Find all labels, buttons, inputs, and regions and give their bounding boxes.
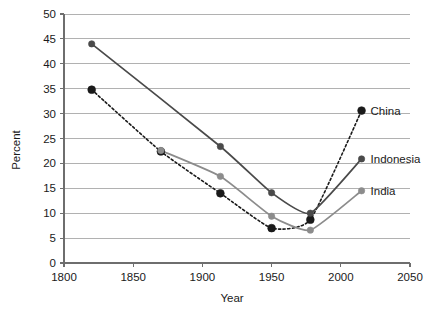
series-markers bbox=[88, 41, 366, 234]
series-label-india: India bbox=[371, 185, 397, 197]
data-point-india-1913 bbox=[217, 173, 223, 179]
data-point-china-1950 bbox=[268, 224, 276, 232]
y-tick-label-25: 25 bbox=[43, 133, 56, 145]
x-tick-label-1900: 1900 bbox=[190, 271, 216, 283]
data-point-indonesia-1913 bbox=[217, 143, 223, 149]
series-label-indonesia: Indonesia bbox=[371, 153, 421, 165]
series-label-china: China bbox=[371, 105, 402, 117]
y-tick-label-30: 30 bbox=[43, 108, 56, 120]
y-axis-tick-labels: 05101520253035404550 bbox=[43, 8, 56, 269]
x-tick-label-2050: 2050 bbox=[397, 271, 423, 283]
chart-canvas: 05101520253035404550 1800185019001950200… bbox=[0, 0, 441, 315]
data-point-china-1820 bbox=[88, 86, 96, 94]
y-tick-label-50: 50 bbox=[43, 8, 56, 20]
x-axis-tick-labels: 180018501900195020002050 bbox=[51, 271, 423, 283]
x-tick-label-1800: 1800 bbox=[51, 271, 77, 283]
data-point-indonesia-1950 bbox=[268, 190, 274, 196]
series-line-china bbox=[92, 90, 362, 229]
data-point-china-1978 bbox=[306, 216, 314, 224]
y-tick-label-10: 10 bbox=[43, 207, 56, 219]
line-chart: 05101520253035404550 1800185019001950200… bbox=[0, 0, 441, 315]
data-point-indonesia-1820 bbox=[88, 41, 94, 47]
x-tick-label-2000: 2000 bbox=[328, 271, 354, 283]
data-point-china-2015 bbox=[358, 107, 366, 115]
data-point-indonesia-1978 bbox=[307, 210, 313, 216]
y-tick-label-15: 15 bbox=[43, 182, 56, 194]
series-lines bbox=[92, 44, 362, 231]
y-tick-label-20: 20 bbox=[43, 157, 56, 169]
data-point-india-1870 bbox=[158, 147, 164, 153]
series-line-india bbox=[161, 150, 362, 230]
x-tick-label-1850: 1850 bbox=[120, 271, 146, 283]
y-axis-title: Percent bbox=[10, 129, 22, 169]
data-point-china-1913 bbox=[216, 189, 224, 197]
y-tick-label-0: 0 bbox=[50, 257, 56, 269]
y-tick-label-40: 40 bbox=[43, 58, 56, 70]
data-point-india-1950 bbox=[268, 213, 274, 219]
data-point-india-2015 bbox=[358, 188, 364, 194]
x-tick-label-1950: 1950 bbox=[259, 271, 285, 283]
y-tick-label-35: 35 bbox=[43, 83, 56, 95]
y-tick-label-45: 45 bbox=[43, 33, 56, 45]
tick-marks bbox=[60, 14, 410, 267]
x-axis-title: Year bbox=[220, 292, 243, 304]
data-point-india-1978 bbox=[307, 227, 313, 233]
series-end-labels: ChinaIndonesiaIndia bbox=[371, 105, 421, 197]
y-tick-label-5: 5 bbox=[50, 232, 56, 244]
data-point-indonesia-2015 bbox=[358, 156, 364, 162]
